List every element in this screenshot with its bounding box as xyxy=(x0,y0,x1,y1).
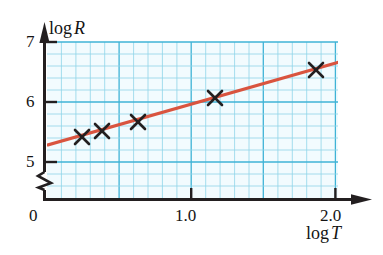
x-axis-label: logT xyxy=(306,224,341,242)
x-axis-label-prefix: log xyxy=(306,223,329,243)
y-tick-label-7: 7 xyxy=(26,33,35,50)
x-axis-arrowhead xyxy=(351,194,372,205)
chart-figure: logR logT 7 6 5 0 1.0 2.0 xyxy=(0,0,383,255)
y-tick-label-5: 5 xyxy=(26,153,35,170)
y-axis-label-prefix: log xyxy=(49,18,72,38)
y-tick-label-6: 6 xyxy=(26,93,35,110)
y-axis-label: logR xyxy=(49,19,85,37)
x-tick-label-2: 2.0 xyxy=(320,207,341,224)
x-tick-label-0: 0 xyxy=(29,207,38,224)
x-axis-label-variable: T xyxy=(329,223,341,243)
x-tick-label-1: 1.0 xyxy=(175,207,196,224)
y-axis-label-variable: R xyxy=(72,18,85,38)
